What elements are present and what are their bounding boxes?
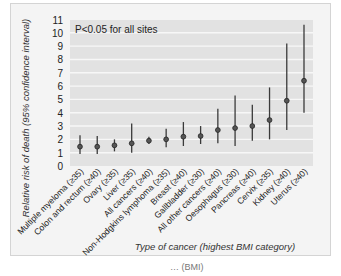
y-tick-label: 6 (57, 81, 63, 92)
estimate-marker (147, 138, 152, 143)
y-tick-label: 4 (57, 108, 63, 119)
y-tick-label: 3 (57, 121, 63, 132)
y-tick-label: 7 (57, 68, 63, 79)
y-tick-label: 2 (57, 134, 63, 145)
estimate-marker (250, 124, 255, 129)
significance-annotation: P<0.05 for all sites (75, 24, 158, 35)
y-tick-label: 11 (53, 15, 64, 26)
y-axis-label: Relative risk of death (95% confidence i… (20, 19, 31, 218)
y-tick-label: 0 (57, 161, 63, 172)
estimate-marker (302, 78, 307, 83)
estimate-marker (164, 137, 169, 142)
estimate-marker (95, 144, 100, 149)
estimate-marker (112, 143, 117, 148)
error-bar-chart: 01234567891011 P<0.05 for all sites Mult… (0, 0, 341, 276)
figure-caption-fragment: … (BMI) (170, 262, 341, 276)
y-tick-label: 5 (57, 94, 63, 105)
x-axis-label: Type of cancer (highest BMI category) (135, 241, 295, 252)
estimate-marker (78, 144, 83, 149)
estimate-marker (267, 118, 272, 123)
estimate-marker (215, 128, 220, 133)
plot-background (70, 20, 313, 166)
y-tick-label: 9 (57, 41, 63, 52)
y-tick-label: 10 (52, 28, 64, 39)
estimate-marker (233, 126, 238, 131)
estimate-marker (181, 134, 186, 139)
estimate-marker (198, 134, 203, 139)
y-axis-ticks: 01234567891011 (52, 15, 64, 173)
y-tick-label: 8 (57, 54, 63, 65)
estimate-marker (129, 141, 134, 146)
estimate-marker (284, 98, 289, 103)
y-tick-label: 1 (57, 148, 63, 159)
